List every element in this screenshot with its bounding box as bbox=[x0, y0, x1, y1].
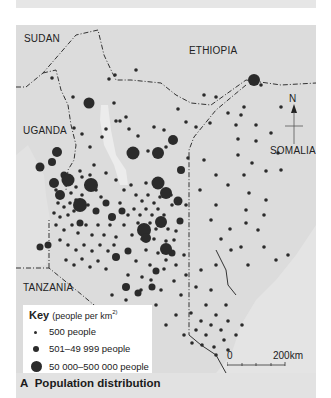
large-dots bbox=[49, 74, 260, 255]
key-item: 501–49 999 people bbox=[23, 342, 152, 358]
scale-start: 0 bbox=[227, 350, 233, 361]
label-ethiopia: ETHIOPIA bbox=[189, 45, 237, 56]
caption-title: Population distribution bbox=[35, 377, 161, 389]
north-label: N bbox=[289, 93, 296, 104]
key-heading: Key bbox=[29, 309, 49, 321]
key-item: 500 people bbox=[23, 325, 152, 341]
key-item: 50 000–500 000 people bbox=[23, 360, 152, 373]
label-sudan: SUDAN bbox=[24, 33, 60, 44]
label-somalia: SOMALIA bbox=[270, 145, 316, 156]
map-frame: SUDAN ETHIOPIA UGANDA SOMALIA TANZANIA N… bbox=[16, 25, 316, 373]
key-item-label: 500 people bbox=[49, 326, 96, 337]
coastline bbox=[189, 335, 226, 373]
scale-line bbox=[227, 361, 287, 367]
caption-text: A Population distribution bbox=[20, 377, 161, 389]
top-margin-bar bbox=[16, 0, 316, 8]
scale-bar: 0 200km bbox=[227, 350, 312, 366]
key-title: Key (people per km2) bbox=[29, 309, 118, 321]
legend-key: Key (people per km2) 500 people 501–49 9… bbox=[23, 305, 152, 373]
key-subtitle: (people per km bbox=[52, 311, 112, 321]
north-arrow-icon bbox=[284, 104, 304, 144]
lake-turkana bbox=[100, 105, 128, 185]
scale-end-value: 200 bbox=[273, 350, 290, 361]
lake-victoria bbox=[16, 145, 51, 270]
scale-unit: km bbox=[290, 350, 303, 361]
river bbox=[216, 250, 236, 295]
small-dot-icon bbox=[34, 331, 37, 334]
figure-caption: A Population distribution bbox=[16, 373, 316, 398]
medium-dot-icon bbox=[33, 346, 39, 352]
scale-end: 200km bbox=[273, 350, 303, 361]
large-dot-icon bbox=[31, 361, 42, 372]
label-tanzania: TANZANIA bbox=[23, 282, 73, 293]
key-item-label: 50 000–500 000 people bbox=[49, 361, 149, 372]
key-item-label: 501–49 999 people bbox=[49, 343, 130, 354]
key-superscript: 2) bbox=[112, 309, 117, 315]
caption-letter: A bbox=[20, 377, 28, 389]
north-arrow: N bbox=[284, 93, 304, 143]
label-uganda: UGANDA bbox=[23, 125, 67, 136]
